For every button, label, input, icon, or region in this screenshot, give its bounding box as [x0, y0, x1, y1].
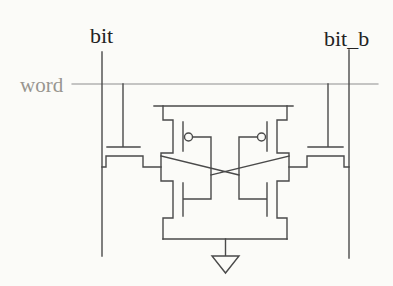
cross-coupling-wires: [161, 156, 289, 175]
left-pmos-bubble-icon: [185, 133, 193, 141]
ground-icon: [212, 239, 239, 273]
sram-cell-figure: bit bit_b word: [0, 0, 393, 286]
bit-label: bit: [90, 23, 113, 48]
left-access-transistor-channel: [102, 156, 161, 167]
word-label: word: [20, 73, 64, 97]
right-inverter-body: [277, 106, 289, 239]
left-access-transistor-gate: [107, 84, 140, 147]
bit-b-label: bit_b: [324, 26, 369, 51]
left-inverter-body: [161, 106, 173, 239]
right-access-transistor-gate: [308, 84, 343, 147]
right-access-transistor-channel: [289, 156, 349, 167]
right-pmos-bubble-icon: [258, 133, 266, 141]
sram-cell-schematic: bit bit_b word: [0, 0, 393, 286]
